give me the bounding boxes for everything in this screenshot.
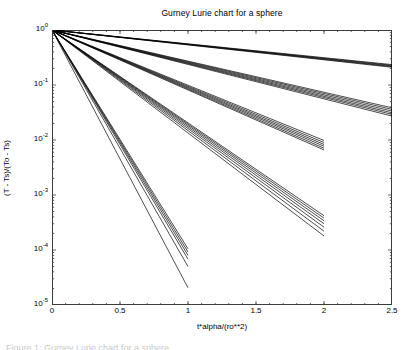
y-tick-exponent: -5 bbox=[43, 297, 48, 303]
y-tick-mantissa: 10 bbox=[36, 24, 45, 33]
y-axis-label: (T - Ts)/(To - Ts) bbox=[2, 140, 11, 196]
data-line bbox=[52, 30, 324, 150]
data-lines bbox=[52, 30, 392, 288]
x-tick-label: 1 bbox=[186, 307, 190, 315]
x-tick-label: 2 bbox=[322, 307, 326, 315]
x-tick-label: 0 bbox=[50, 307, 54, 315]
y-tick-mantissa: 10 bbox=[34, 244, 43, 253]
data-line bbox=[52, 30, 392, 116]
y-tick-label: 10-3 bbox=[34, 190, 48, 198]
curve-layer bbox=[52, 30, 392, 305]
data-line bbox=[52, 30, 188, 267]
y-tick-exponent: 0 bbox=[45, 22, 48, 28]
y-tick-exponent: -2 bbox=[43, 132, 48, 138]
chart-title: Gurney Lurie chart for a sphere bbox=[52, 8, 392, 18]
y-tick-label: 10-1 bbox=[34, 80, 48, 88]
y-tick-label: 10-4 bbox=[34, 245, 48, 253]
y-tick-label: 100 bbox=[36, 25, 48, 33]
y-tick-exponent: -4 bbox=[43, 242, 48, 248]
y-tick-exponent: -1 bbox=[43, 77, 48, 83]
y-tick-mantissa: 10 bbox=[34, 299, 43, 308]
y-tick-mantissa: 10 bbox=[34, 79, 43, 88]
data-line bbox=[52, 30, 188, 259]
x-tick-label: 1.5 bbox=[250, 307, 261, 315]
y-tick-label: 10-5 bbox=[34, 300, 48, 308]
y-tick-label: 10-2 bbox=[34, 135, 48, 143]
y-tick-exponent: -3 bbox=[43, 187, 48, 193]
y-tick-mantissa: 10 bbox=[34, 189, 43, 198]
data-line bbox=[52, 30, 188, 288]
figure-canvas: Gurney Lurie chart for a sphere 10010-11… bbox=[0, 0, 418, 350]
data-line bbox=[52, 30, 392, 67]
x-axis-label: t*alpha/(ro**2) bbox=[52, 322, 392, 331]
x-tick-label: 2.5 bbox=[386, 307, 397, 315]
data-line bbox=[52, 30, 324, 224]
y-tick-mantissa: 10 bbox=[34, 134, 43, 143]
x-tick-label: 0.5 bbox=[114, 307, 125, 315]
figure-caption: Figure 1: Gurney Lurie chart for a spher… bbox=[0, 343, 418, 350]
